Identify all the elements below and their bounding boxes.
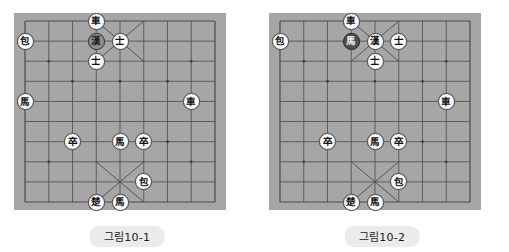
piece-general-cho[interactable]: 楚 xyxy=(343,194,360,211)
piece-horse-han[interactable]: 馬 xyxy=(17,93,34,110)
piece-chariot-han[interactable]: 車 xyxy=(88,13,105,30)
piece-cannon-han[interactable]: 包 xyxy=(17,33,34,50)
piece-guard-han-2[interactable]: 士 xyxy=(88,53,105,70)
piece-general-han[interactable]: 漢 xyxy=(88,33,105,50)
piece-chariot-cho[interactable]: 車 xyxy=(438,93,455,110)
figure-10-1: 車包漢士士馬車卒馬卒包楚馬 그림10-1 xyxy=(0,0,254,252)
janggi-board: 車包馬漢士士車卒馬卒包楚馬 xyxy=(269,13,481,210)
piece-horse-cho-2[interactable]: 馬 xyxy=(367,194,384,211)
piece-guard-han-1[interactable]: 士 xyxy=(112,33,129,50)
piece-general-cho[interactable]: 楚 xyxy=(88,194,105,211)
piece-cannon-han[interactable]: 包 xyxy=(272,33,289,50)
piece-horse-highlighted[interactable]: 馬 xyxy=(343,33,360,50)
piece-horse-cho[interactable]: 馬 xyxy=(367,133,384,150)
figure-caption: 그림10-2 xyxy=(345,226,420,247)
piece-horse-cho-2[interactable]: 馬 xyxy=(112,194,129,211)
piece-chariot-han[interactable]: 車 xyxy=(343,13,360,30)
piece-chariot-cho[interactable]: 車 xyxy=(183,93,200,110)
piece-horse-cho[interactable]: 馬 xyxy=(112,133,129,150)
figure-10-2: 車包馬漢士士車卒馬卒包楚馬 그림10-2 xyxy=(255,0,509,252)
figure-sheet: 車包漢士士馬車卒馬卒包楚馬 그림10-1 車包馬漢士士車卒馬卒包楚馬 그림10-… xyxy=(0,0,509,252)
janggi-board: 車包漢士士馬車卒馬卒包楚馬 xyxy=(14,13,226,210)
piece-guard-han-2[interactable]: 士 xyxy=(367,53,384,70)
piece-guard-han-1[interactable]: 士 xyxy=(390,33,407,50)
figure-caption: 그림10-1 xyxy=(90,226,165,247)
piece-general-han[interactable]: 漢 xyxy=(367,33,384,50)
